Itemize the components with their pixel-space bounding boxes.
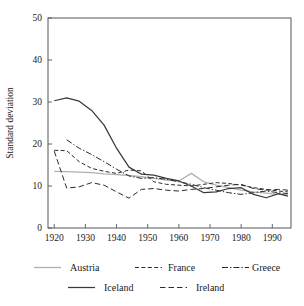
legend-label-france: France: [168, 262, 196, 273]
chart-legend: AustriaFranceGreeceIcelandIreland: [34, 262, 281, 293]
x-tick-label: 1950: [138, 233, 157, 243]
y-tick-label: 40: [33, 55, 43, 65]
series-line-greece: [67, 140, 288, 195]
x-tick-label: 1980: [232, 233, 251, 243]
x-tick-label: 1970: [201, 233, 220, 243]
x-tick-label: 1960: [169, 233, 188, 243]
x-tick-label: 1920: [45, 233, 64, 243]
x-tick-label: 1930: [76, 233, 95, 243]
line-chart: 01020304050 1920193019401950196019701980…: [0, 0, 304, 306]
y-tick-label: 50: [33, 13, 43, 23]
y-tick-label: 10: [33, 181, 43, 191]
y-tick-label: 20: [33, 139, 43, 149]
x-tick-label: 1990: [263, 233, 282, 243]
plot-frame: [48, 18, 291, 228]
legend-label-greece: Greece: [252, 262, 281, 273]
legend-label-austria: Austria: [70, 262, 100, 273]
series-line-iceland: [54, 98, 288, 198]
x-tick-label: 1940: [107, 233, 126, 243]
y-axis-ticks: 01020304050: [33, 13, 53, 233]
y-axis-title: Standard deviation: [5, 87, 15, 159]
chart-figure: 01020304050 1920193019401950196019701980…: [0, 0, 304, 306]
y-tick-label: 30: [33, 97, 43, 107]
series-line-france: [54, 150, 288, 192]
y-tick-label: 0: [37, 223, 42, 233]
legend-label-ireland: Ireland: [196, 282, 224, 293]
data-series-group: [54, 98, 288, 198]
x-axis-ticks: 19201930194019501960197019801990: [45, 224, 282, 243]
legend-label-iceland: Iceland: [104, 282, 133, 293]
